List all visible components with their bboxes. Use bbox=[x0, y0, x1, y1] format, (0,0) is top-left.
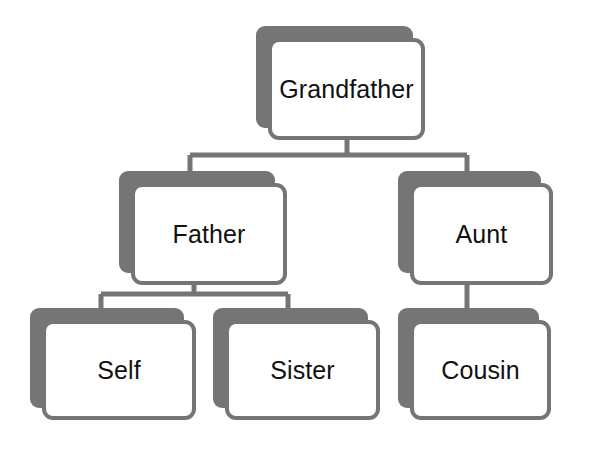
node-card[interactable]: Grandfather bbox=[268, 38, 425, 140]
edge-father-children bbox=[101, 285, 288, 308]
family-tree-diagram: Grandfather Father Aunt Self Sister Cous… bbox=[0, 0, 593, 456]
node-self[interactable]: Self bbox=[30, 308, 184, 408]
node-grandfather[interactable]: Grandfather bbox=[256, 26, 413, 128]
node-label: Cousin bbox=[441, 358, 519, 383]
node-sister[interactable]: Sister bbox=[213, 308, 368, 408]
node-father[interactable]: Father bbox=[119, 171, 275, 273]
node-label: Father bbox=[173, 222, 246, 247]
node-card[interactable]: Cousin bbox=[410, 320, 551, 420]
node-label: Self bbox=[97, 358, 140, 383]
node-card[interactable]: Self bbox=[42, 320, 196, 420]
node-cousin[interactable]: Cousin bbox=[398, 308, 539, 408]
node-aunt[interactable]: Aunt bbox=[398, 171, 541, 273]
node-card[interactable]: Father bbox=[131, 183, 287, 285]
node-label: Sister bbox=[270, 358, 335, 383]
node-card[interactable]: Sister bbox=[225, 320, 380, 420]
node-label: Grandfather bbox=[279, 77, 414, 102]
edge-grandfather-children bbox=[190, 140, 467, 171]
node-label: Aunt bbox=[456, 222, 508, 247]
node-card[interactable]: Aunt bbox=[410, 183, 553, 285]
